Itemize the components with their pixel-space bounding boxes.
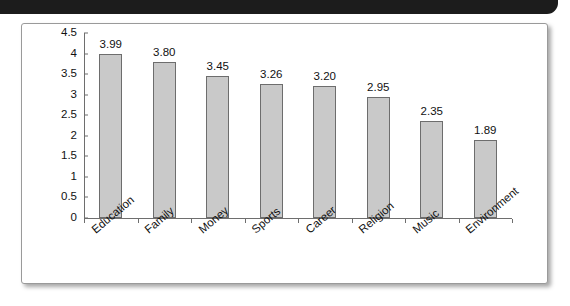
y-axis-tick-label: 3.5 bbox=[61, 68, 77, 80]
x-axis-tick-mark bbox=[459, 219, 460, 223]
y-axis-tick-mark bbox=[84, 156, 88, 157]
y-axis-tick-label: 4 bbox=[71, 48, 77, 60]
y-axis-tick-mark bbox=[84, 135, 88, 136]
x-axis-tick-mark bbox=[405, 219, 406, 223]
y-axis-tick-label: 1 bbox=[71, 171, 77, 183]
x-axis-tick-mark bbox=[245, 219, 246, 223]
bar-value-label: 3.80 bbox=[140, 47, 188, 59]
bar-chart-plot-area: 4.543.532.521.510.50 3.993.803.453.263.2… bbox=[22, 24, 549, 285]
y-axis-tick-mark bbox=[84, 74, 88, 75]
x-axis-tick-mark bbox=[84, 219, 85, 223]
x-axis-category-label: Sports bbox=[250, 206, 283, 236]
x-axis-tick-mark bbox=[191, 219, 192, 223]
x-axis-tick-mark bbox=[352, 219, 353, 223]
x-axis-category-label: Music bbox=[411, 208, 441, 236]
x-axis-tick-mark bbox=[138, 219, 139, 223]
y-axis-tick-mark bbox=[84, 115, 88, 116]
y-axis-tick-mark bbox=[84, 197, 88, 198]
bar bbox=[99, 54, 122, 218]
x-axis-tick-mark bbox=[512, 219, 513, 223]
bar-value-label: 2.35 bbox=[408, 106, 456, 118]
y-axis-tick-mark bbox=[84, 176, 88, 177]
bar-value-label: 3.45 bbox=[194, 61, 242, 73]
x-axis-tick-mark bbox=[298, 219, 299, 223]
bar bbox=[153, 62, 176, 218]
bar-value-label: 2.95 bbox=[354, 82, 402, 94]
bar-value-label: 3.20 bbox=[301, 71, 349, 83]
bar-value-label: 1.89 bbox=[461, 125, 509, 137]
bar-value-label: 3.99 bbox=[87, 39, 135, 51]
y-axis-tick-mark bbox=[84, 53, 88, 54]
y-axis-tick-mark bbox=[84, 33, 88, 34]
y-axis-tick-label: 1.5 bbox=[61, 151, 77, 163]
y-axis-tick-label: 3 bbox=[71, 89, 77, 101]
bar-value-label: 3.26 bbox=[247, 69, 295, 81]
bar bbox=[420, 121, 443, 218]
x-axis-category-label: Family bbox=[143, 205, 176, 236]
y-axis-tick-label: 2.5 bbox=[61, 109, 77, 121]
bar bbox=[206, 76, 229, 218]
bar bbox=[313, 86, 336, 218]
y-axis-ticks: 4.543.532.521.510.50 bbox=[22, 24, 84, 285]
y-axis-tick-label: 0 bbox=[71, 212, 77, 224]
bar bbox=[260, 84, 283, 218]
y-axis-tick-mark bbox=[84, 94, 88, 95]
y-axis-tick-label: 2 bbox=[71, 130, 77, 142]
top-black-banner bbox=[0, 0, 558, 14]
y-axis-tick-label: 0.5 bbox=[61, 192, 77, 204]
y-axis-line bbox=[84, 33, 85, 219]
chart-figure-frame: 4.543.532.521.510.50 3.993.803.453.263.2… bbox=[21, 23, 548, 284]
y-axis-tick-label: 4.5 bbox=[61, 27, 77, 39]
